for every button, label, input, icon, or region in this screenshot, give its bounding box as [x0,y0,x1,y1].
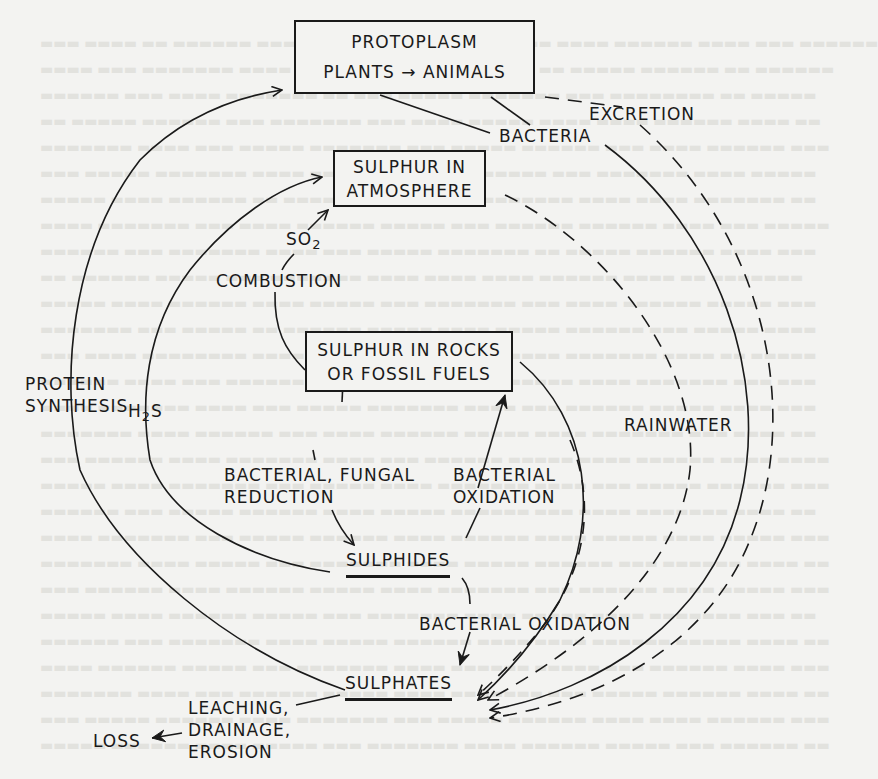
arrow-so2-to-atmosphere [308,210,328,230]
box-sulphur-atmosphere: SULPHUR IN ATMOSPHERE [333,150,486,207]
rocks-line1: SULPHUR IN ROCKS [307,338,511,362]
h2s-s: S [151,401,163,421]
label-h2s: H2S [128,400,163,428]
label-protein-synthesis: PROTEIN SYNTHESIS [25,373,128,417]
bo-line2: OXIDATION [453,486,556,508]
protein-line1: PROTEIN [25,373,128,395]
label-bacteria: BACTERIA [499,125,591,147]
line-bacterial-oxidation-to-sulphides [466,508,480,538]
label-bacterial-oxidation-rocks: BACTERIAL OXIDATION [453,464,556,508]
arrow-right-icon: → [401,62,416,82]
protein-line2: SYNTHESIS [25,395,128,417]
protoplasm-title: PROTOPLASM [296,30,533,54]
atmosphere-line2: ATMOSPHERE [335,179,484,203]
so2-main: SO [286,229,312,249]
plants-to-animals: PLANTS → ANIMALS [296,60,533,84]
bfr-line1: BACTERIAL, FUNGAL [224,464,415,486]
rocks-line2: OR FOSSIL FUELS [307,362,511,386]
node-sulphides: SULPHIDES [346,549,450,578]
line-sulphides-to-bacterial-oxidation [462,578,470,604]
label-bacterial-oxidation: BACTERIAL OXIDATION [419,613,631,635]
leach-line2: DRAINAGE, [188,719,291,741]
so2-subscript: 2 [312,237,321,252]
h2s-subscript: 2 [142,409,151,424]
node-loss: LOSS [93,730,141,752]
box-protoplasm: PROTOPLASM PLANTS → ANIMALS [294,20,535,94]
bfr-line2: REDUCTION [224,486,415,508]
plants-label: PLANTS [323,62,395,82]
leach-line1: LEACHING, [188,697,291,719]
line-animals-to-bacteria [491,97,530,125]
line-reduction-top [313,450,315,460]
label-so2: SO2 [286,228,321,256]
line-protoplasm-to-bacteria [380,95,490,133]
leach-line3: EROSION [188,741,291,763]
h2s-h: H [128,401,142,421]
atmosphere-line1: SULPHUR IN [335,155,484,179]
arrow-reduction-to-sulphides [332,510,354,545]
arrow-so2-line [282,254,294,270]
label-leaching: LEACHING, DRAINAGE, EROSION [188,697,291,763]
label-bacterial-fungal-reduction: BACTERIAL, FUNGAL REDUCTION [224,464,415,508]
arrow-bacterial-oxidation-to-sulphates [460,632,470,665]
animals-label: ANIMALS [423,62,506,82]
arrow-rocks-oxidation-to-sulphates [478,362,583,700]
arrow-leaching-to-loss [152,733,182,738]
line-sulphates-to-leaching [296,695,340,705]
label-combustion: COMBUSTION [216,270,342,292]
bo-line1: BACTERIAL [453,464,556,486]
arrow-combustion [275,292,305,370]
label-rainwater: RAINWATER [624,414,733,436]
node-sulphates: SULPHATES [345,672,452,701]
box-sulphur-rocks: SULPHUR IN ROCKS OR FOSSIL FUELS [305,331,513,392]
label-excretion: EXCRETION [589,103,695,125]
